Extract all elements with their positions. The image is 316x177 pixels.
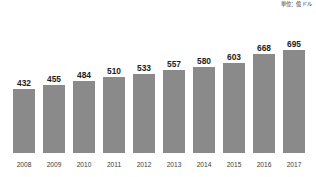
bar-value-label: 484 (69, 71, 99, 80)
x-axis-tick-label: 2013 (159, 161, 189, 169)
bar-rect[interactable] (43, 85, 65, 153)
x-axis-tick-label: 2014 (189, 161, 219, 169)
bar-rect[interactable] (103, 77, 125, 153)
bar-value-label: 668 (249, 44, 279, 53)
bar-value-label: 432 (9, 79, 39, 88)
bar-value-label: 695 (279, 40, 309, 49)
bar-rect[interactable] (133, 74, 155, 153)
x-axis-tick-label: 2016 (249, 161, 279, 169)
bar-rect[interactable] (193, 67, 215, 153)
bar-value-label: 580 (189, 57, 219, 66)
bar-rect[interactable] (253, 54, 275, 153)
bar-chart: 単位：億ドル 432200845520094842010510201153320… (0, 0, 316, 177)
bar-value-label: 510 (99, 67, 129, 76)
bar-value-label: 603 (219, 53, 249, 62)
bar-value-label: 455 (39, 75, 69, 84)
x-axis-tick-label: 2017 (279, 161, 309, 169)
x-axis-tick-label: 2015 (219, 161, 249, 169)
x-axis-tick-label: 2009 (39, 161, 69, 169)
x-axis-tick-label: 2010 (69, 161, 99, 169)
bar-rect[interactable] (13, 89, 35, 153)
plot-area: 4322008455200948420105102011533201255720… (0, 0, 316, 177)
bar-value-label: 557 (159, 60, 189, 69)
x-axis-tick-label: 2012 (129, 161, 159, 169)
bar-rect[interactable] (163, 70, 185, 153)
bar-rect[interactable] (223, 63, 245, 153)
x-axis-tick-label: 2008 (9, 161, 39, 169)
bar-value-label: 533 (129, 64, 159, 73)
bar-rect[interactable] (73, 81, 95, 153)
x-axis-tick-label: 2011 (99, 161, 129, 169)
bar-rect[interactable] (283, 50, 305, 153)
